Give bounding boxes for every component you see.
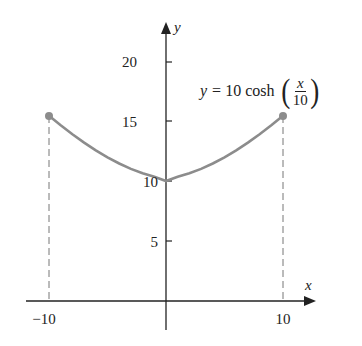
endpoint-left [45,112,53,120]
x-tick-label-neg10: −10 [32,311,55,327]
y-axis-label: y [172,19,181,35]
x-axis-arrow-icon [304,296,316,306]
y-tick-label-15: 15 [122,114,137,130]
y-tick-label-5: 5 [151,234,159,250]
formula-paren-close: ) [310,74,319,108]
y-tick-label-10: 10 [143,174,158,190]
formula-paren-open: ( [282,74,291,108]
formula-denominator: 10 [293,92,308,108]
y-tick-label-20: 20 [122,54,137,70]
function-annotation: y = 10 cosh ( x 10 ) [200,74,320,108]
x-axis-label: x [304,277,312,293]
x-tick-label-10: 10 [276,311,291,327]
y-axis-arrow-icon [161,22,171,34]
endpoint-right [279,112,287,120]
formula-lhs: y [200,82,207,100]
formula-numerator: x [295,75,306,92]
formula-fraction: x 10 [293,75,308,108]
chart-canvas: 20 15 10 5 −10 10 y x [0,0,362,346]
formula-rhs: = 10 cosh [212,82,274,100]
